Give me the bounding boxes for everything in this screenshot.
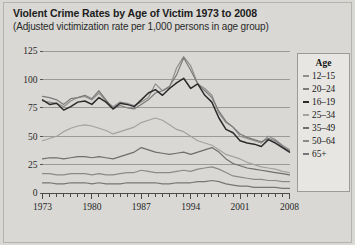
- legend-swatch-icon: [303, 114, 309, 117]
- legend-swatch-icon: [303, 101, 309, 104]
- legend-swatch-icon: [303, 75, 309, 78]
- legend-item-50-64: 50–64: [303, 136, 349, 146]
- svg-text:100: 100: [23, 75, 38, 85]
- x-axis-minor-ticks: [43, 193, 290, 199]
- legend-item-65+: 65+: [303, 149, 349, 159]
- legend-item-16-19: 16–19: [303, 97, 349, 107]
- svg-text:1994: 1994: [181, 202, 200, 212]
- legend-items: 12–1520–2416–1925–3435–4950–6465+: [298, 71, 349, 159]
- legend: Age 12–1520–2416–1925–3435–4950–6465+: [297, 53, 350, 192]
- legend-item-12-15: 12–15: [303, 71, 349, 81]
- svg-text:1973: 1973: [33, 202, 52, 212]
- legend-heading: Age: [298, 58, 349, 68]
- svg-text:75: 75: [28, 103, 38, 113]
- legend-swatch-icon: [303, 88, 309, 91]
- legend-item-label: 25–34: [312, 110, 335, 120]
- legend-swatch-icon: [303, 140, 309, 143]
- legend-swatch-icon: [303, 153, 309, 156]
- svg-text:125: 125: [23, 46, 38, 56]
- y-axis-tick-labels: 0255075100125: [23, 46, 38, 198]
- svg-text:1980: 1980: [82, 202, 101, 212]
- legend-item-label: 35–49: [312, 123, 335, 133]
- legend-item-label: 20–24: [312, 84, 335, 94]
- legend-item-label: 50–64: [312, 136, 335, 146]
- legend-swatch-icon: [303, 127, 309, 130]
- data-series-lines: [43, 57, 290, 189]
- svg-text:50: 50: [28, 132, 38, 142]
- legend-item-label: 16–19: [312, 97, 335, 107]
- x-axis-tick-labels: 197319801987199420012008: [33, 202, 299, 212]
- svg-text:2001: 2001: [231, 202, 250, 212]
- svg-text:1987: 1987: [132, 202, 151, 212]
- legend-item-20-24: 20–24: [303, 84, 349, 94]
- svg-text:25: 25: [28, 160, 38, 170]
- chart-frame: Violent Crime Rates by Age of Victim 197…: [3, 2, 352, 243]
- legend-item-25-34: 25–34: [303, 110, 349, 120]
- legend-item-35-49: 35–49: [303, 123, 349, 133]
- svg-text:0: 0: [33, 188, 38, 198]
- svg-text:2008: 2008: [280, 202, 299, 212]
- legend-item-label: 12–15: [312, 71, 335, 81]
- legend-item-label: 65+: [312, 149, 327, 159]
